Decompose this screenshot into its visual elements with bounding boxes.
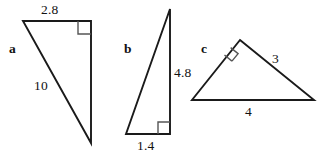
triangle-a-hypotenuse-label: 10 bbox=[34, 79, 48, 93]
triangle-b-name-label: b bbox=[124, 42, 132, 56]
triangle-b-group bbox=[126, 9, 170, 134]
triangle-c-name-label: c bbox=[201, 42, 207, 56]
triangle-b-right-side-label: 4.8 bbox=[174, 66, 191, 80]
triangle-c-outline bbox=[192, 40, 314, 100]
triangle-a-top-side-label: 2.8 bbox=[41, 3, 58, 17]
triangle-c-group bbox=[192, 40, 314, 100]
triangle-c-bottom-side-label: 4 bbox=[245, 105, 252, 119]
triangle-b-right-angle-marker bbox=[158, 122, 170, 134]
figure-svg bbox=[0, 0, 323, 154]
geometry-figure: 2.8 a 10 b 4.8 1.4 c 3 4 bbox=[0, 0, 323, 154]
triangle-b-bottom-side-label: 1.4 bbox=[137, 139, 154, 153]
triangle-c-right-side-label: 3 bbox=[272, 52, 279, 66]
triangle-b-outline bbox=[126, 9, 170, 134]
triangle-a-right-angle-marker bbox=[78, 21, 91, 34]
triangle-a-name-label: a bbox=[9, 42, 16, 56]
